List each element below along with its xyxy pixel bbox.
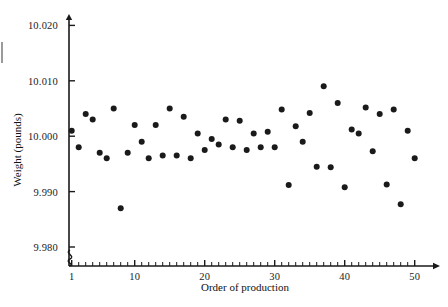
data-point: [69, 128, 75, 134]
scatter-plot-figure: 9.9809.99010.00010.01010.020 11020304050…: [0, 0, 448, 307]
plot-canvas: [0, 0, 448, 307]
data-point: [272, 144, 278, 150]
data-point: [167, 106, 173, 112]
y-tick-label: 10.020: [0, 20, 58, 31]
data-point: [265, 129, 271, 135]
x-tick-label: 50: [409, 271, 420, 282]
data-point: [328, 164, 334, 170]
x-tick-label: 40: [339, 271, 350, 282]
data-point: [307, 110, 313, 116]
data-point: [293, 123, 299, 129]
x-axis-title: Order of production: [201, 281, 289, 293]
data-point: [223, 117, 229, 123]
x-tick-label: 10: [129, 271, 140, 282]
data-point: [279, 107, 285, 113]
data-point-series: [69, 83, 418, 211]
data-point: [139, 139, 145, 145]
data-point: [118, 205, 124, 211]
axis-lines: [66, 14, 440, 269]
data-point: [202, 147, 208, 153]
data-point: [104, 155, 110, 161]
y-axis-tick-marks: [69, 25, 75, 247]
data-point: [195, 130, 201, 136]
data-point: [342, 184, 348, 190]
data-point: [174, 153, 180, 159]
data-point: [363, 104, 369, 110]
data-point: [230, 144, 236, 150]
data-point: [244, 147, 250, 153]
data-point: [356, 130, 362, 136]
data-point: [377, 111, 383, 117]
data-point: [237, 118, 243, 124]
data-point: [251, 130, 257, 136]
data-point: [132, 122, 138, 128]
y-tick-label: 9.990: [0, 186, 58, 197]
data-point: [370, 148, 376, 154]
y-tick-label: 9.980: [0, 242, 58, 253]
data-point: [181, 114, 187, 120]
data-point: [146, 155, 152, 161]
data-point: [160, 153, 166, 159]
data-point: [76, 144, 82, 150]
data-point: [286, 182, 292, 188]
data-point: [209, 136, 215, 142]
data-point: [314, 164, 320, 170]
data-point: [405, 128, 411, 134]
data-point: [300, 139, 306, 145]
data-point: [398, 201, 404, 207]
y-axis-title: Weight (pounds): [11, 113, 23, 186]
x-tick-label: 1: [69, 271, 74, 282]
data-point: [83, 111, 89, 117]
data-point: [97, 150, 103, 156]
data-point: [125, 150, 131, 156]
data-point: [153, 122, 159, 128]
data-point: [412, 155, 418, 161]
data-point: [384, 181, 390, 187]
data-point: [258, 144, 264, 150]
y-tick-label: 10.000: [0, 131, 58, 142]
data-point: [391, 107, 397, 113]
y-tick-label: 10.010: [0, 75, 58, 86]
data-point: [216, 142, 222, 148]
data-point: [335, 100, 341, 106]
data-point: [349, 127, 355, 133]
data-point: [90, 117, 96, 123]
x-axis-tick-marks: [72, 260, 415, 266]
data-point: [188, 155, 194, 161]
data-point: [321, 83, 327, 89]
data-point: [111, 106, 117, 112]
